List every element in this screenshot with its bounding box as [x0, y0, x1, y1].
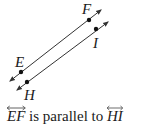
- parallel-lines-diagram: F I E H: [0, 0, 154, 105]
- label-i: I: [92, 35, 99, 51]
- label-f: F: [81, 1, 92, 17]
- label-h: H: [23, 87, 36, 103]
- double-arrow-icon: [7, 105, 25, 111]
- line-ef-notation: EF: [7, 108, 25, 125]
- caption: EF is parallel to HI: [7, 108, 123, 125]
- line-hi: [17, 22, 108, 90]
- point-f: [87, 18, 91, 22]
- point-h: [25, 80, 29, 84]
- caption-text: is parallel to: [25, 108, 107, 124]
- point-e: [19, 70, 23, 74]
- point-i: [94, 27, 98, 31]
- label-e: E: [14, 54, 24, 70]
- double-arrow-icon: [107, 105, 123, 111]
- line-hi-notation: HI: [107, 108, 123, 125]
